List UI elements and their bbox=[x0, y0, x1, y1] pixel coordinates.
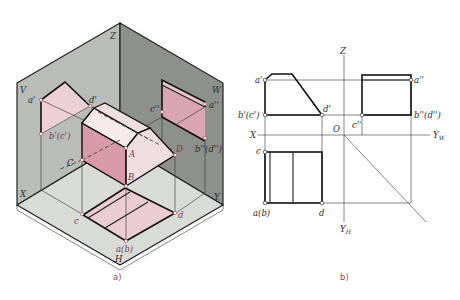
label-z-axis-b: Z bbox=[339, 46, 347, 56]
label-d-prime-b: d' bbox=[323, 104, 331, 114]
label-x-axis-b: X bbox=[249, 130, 257, 140]
label-point-a-b: a(b) bbox=[116, 244, 133, 254]
panel-a-isometric-view: Z V W X Y H a' d' b'(c') c'' a'' b''(d''… bbox=[17, 23, 223, 282]
caption-b: b) bbox=[340, 272, 349, 282]
label-point-B: B bbox=[127, 172, 134, 182]
point-markers-b bbox=[263, 78, 413, 205]
label-d-b: d bbox=[319, 208, 325, 218]
label-point-d: d bbox=[178, 210, 184, 220]
label-b-prime-c-prime: b'(c') bbox=[49, 131, 71, 141]
label-a-prime: a' bbox=[28, 95, 35, 105]
label-point-A: A bbox=[128, 149, 135, 159]
label-a-b-b: a(b) bbox=[253, 208, 270, 218]
label-point-c: c bbox=[74, 216, 79, 226]
label-b-prime-c-prime-b: b'(c') bbox=[238, 110, 260, 120]
label-origin-o: O bbox=[333, 124, 340, 134]
label-b-dblprime-d-dblprime-b: b''(d'') bbox=[414, 110, 441, 120]
orthographic-projection-figure: Z V W X Y H a' d' b'(c') c'' a'' b''(d''… bbox=[0, 0, 460, 300]
label-d-prime: d' bbox=[89, 95, 97, 105]
label-h-plane: H bbox=[114, 254, 123, 264]
caption-a: a) bbox=[113, 272, 122, 282]
label-yh-axis: YH bbox=[340, 224, 352, 235]
label-w-plane: W bbox=[212, 85, 222, 95]
label-a-dblprime: a'' bbox=[209, 100, 219, 110]
label-z-axis: Z bbox=[109, 31, 117, 41]
label-x-axis: X bbox=[19, 189, 27, 199]
label-v-plane: V bbox=[20, 85, 27, 95]
label-a-prime-b: a' bbox=[255, 75, 262, 85]
label-point-C: C bbox=[67, 158, 74, 168]
45-degree-line bbox=[344, 135, 426, 222]
label-c-dblprime-b: c'' bbox=[352, 120, 361, 130]
label-c-b: c bbox=[256, 146, 261, 156]
projector-lines-b bbox=[265, 80, 411, 203]
side-view-outline bbox=[362, 75, 411, 115]
label-a-dblprime-b: a'' bbox=[414, 75, 424, 85]
label-yw-axis: YW bbox=[433, 130, 446, 141]
label-point-D: D bbox=[175, 144, 183, 154]
panel-b-orthographic-views: Z X O YW YH a' b'(c') d' c'' a'' b''(d''… bbox=[238, 46, 446, 282]
label-b-dblprime-d-dblprime: b''(d'') bbox=[195, 144, 222, 154]
label-c-dblprime: c'' bbox=[150, 104, 159, 114]
